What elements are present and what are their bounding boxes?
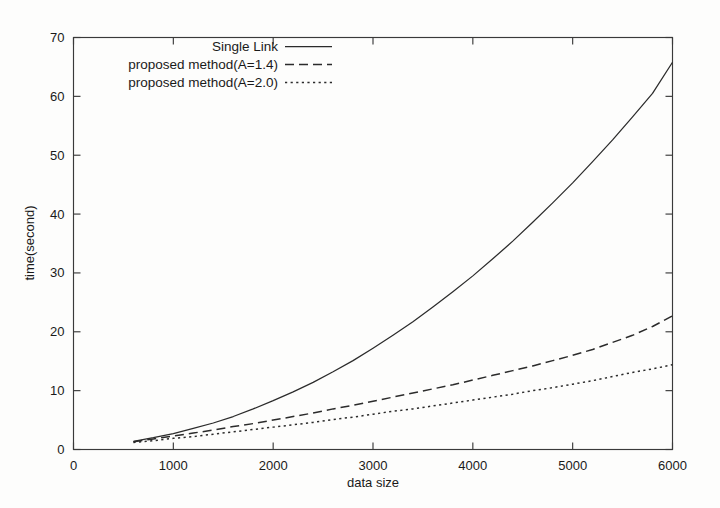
- y-axis-ticks: [74, 38, 673, 450]
- x-axis-title: data size: [347, 475, 399, 490]
- y-tick-label: 60: [50, 89, 64, 104]
- y-tick-label: 50: [50, 148, 64, 163]
- y-tick-label: 10: [50, 383, 64, 398]
- x-tick-label: 6000: [658, 458, 687, 473]
- chart-container: 010203040506070 010002000300040005000600…: [0, 0, 720, 508]
- series-lines: [133, 62, 672, 442]
- x-tick-label: 0: [70, 458, 77, 473]
- x-axis-tick-labels: 0100020003000400050006000: [70, 458, 687, 473]
- y-tick-label: 40: [50, 207, 64, 222]
- line-chart: 010203040506070 010002000300040005000600…: [0, 0, 720, 508]
- x-tick-label: 2000: [259, 458, 288, 473]
- series-line-3: [133, 365, 672, 443]
- y-tick-label: 70: [50, 30, 64, 45]
- legend-item-label-proposed-a14: proposed method(A=1.4): [128, 57, 278, 72]
- plot-frame: [74, 38, 673, 450]
- x-axis-ticks: [74, 38, 673, 450]
- x-tick-label: 4000: [458, 458, 487, 473]
- x-tick-label: 5000: [558, 458, 587, 473]
- y-tick-label: 0: [57, 442, 64, 457]
- x-tick-label: 1000: [159, 458, 188, 473]
- x-tick-label: 3000: [359, 458, 388, 473]
- y-tick-label: 30: [50, 265, 64, 280]
- legend-item-label-proposed-a20: proposed method(A=2.0): [128, 75, 278, 90]
- series-line-1: [133, 62, 672, 441]
- y-axis-tick-labels: 010203040506070: [50, 30, 64, 457]
- y-axis-title: time(second): [22, 205, 37, 280]
- legend: Single Link proposed method(A=1.4) propo…: [128, 39, 332, 90]
- legend-item-label-single-link: Single Link: [212, 39, 278, 54]
- y-tick-label: 20: [50, 324, 64, 339]
